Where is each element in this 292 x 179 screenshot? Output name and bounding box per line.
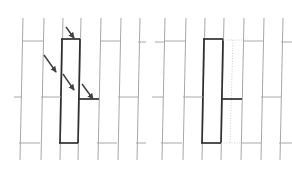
figure-root <box>0 0 292 179</box>
figure-svg <box>0 0 292 179</box>
